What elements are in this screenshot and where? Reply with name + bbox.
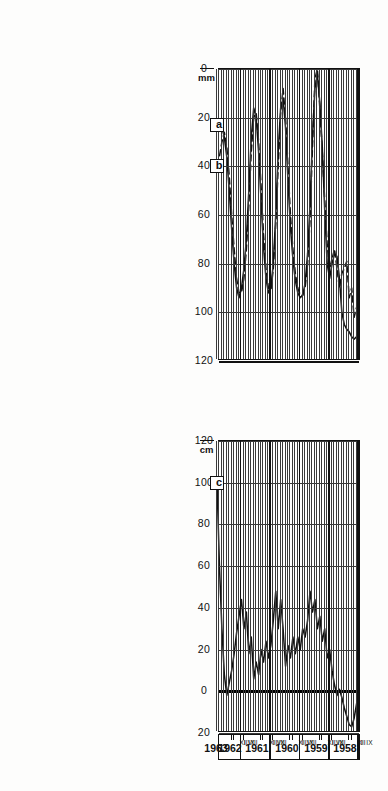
month-gridline [267,69,268,359]
month-gridline [316,441,317,731]
month-tick [231,735,232,740]
month-gridline [263,441,264,731]
month-gridline [297,441,298,731]
y-tick-label: 0 [190,684,218,696]
curve-label-b: b [213,159,225,171]
month-gridline [280,69,281,359]
month-tick [260,735,261,740]
month-gridline [263,69,264,359]
month-gridline [282,69,283,359]
month-gridline [292,441,293,731]
month-gridline [314,69,315,359]
month-tick [289,735,290,740]
month-gridline [221,69,222,359]
month-gridline [297,69,298,359]
month-gridline [275,441,276,731]
month-gridline [348,441,349,731]
month-gridline [267,441,268,731]
year-gridline [358,69,360,359]
month-gridline [275,69,276,359]
month-gridline [289,69,290,359]
plot-area-top [218,68,360,360]
figure-page: mm 120100806040200 ab cm 200204060801001… [0,0,388,791]
month-gridline [277,441,278,731]
month-gridline [321,69,322,359]
curve-label-a: a [213,117,225,129]
month-gridline [316,69,317,359]
month-gridline [312,69,313,359]
month-tick [348,735,349,740]
month-gridline [226,69,227,359]
month-gridline [336,69,337,359]
month-gridline [258,441,259,731]
month-gridline [272,441,273,731]
month-gridline [309,69,310,359]
panel-precipitation: mm 120100806040200 ab [18,26,370,378]
month-gridline [272,69,273,359]
month-gridline [341,441,342,731]
month-gridline [343,441,344,731]
month-gridline [346,69,347,359]
year-gridline [299,69,301,359]
month-gridline [346,441,347,731]
month-gridline [285,69,286,359]
month-gridline [245,441,246,731]
curve-label-c: c [213,475,225,487]
year-gridline [358,441,360,731]
month-gridline [231,69,232,359]
month-gridline [351,441,352,731]
month-gridline [226,441,227,731]
month-gridline [287,69,288,359]
month-gridline [265,69,266,359]
year-gridline [240,441,242,731]
month-gridline [326,441,327,731]
month-gridline [238,69,239,359]
month-gridline [236,69,237,359]
month-gridline [326,69,327,359]
month-label: I [219,738,245,745]
month-gridline [338,69,339,359]
month-gridline [302,441,303,731]
month-gridline [351,69,352,359]
month-gridline [356,69,357,359]
y-tick-label: 20 [190,726,218,738]
month-gridline [260,441,261,731]
month-gridline [287,441,288,731]
month-gridline [243,441,244,731]
month-gridline [265,441,266,731]
month-gridline [243,69,244,359]
month-gridline [353,441,354,731]
y-tick-label: 80 [190,256,218,268]
month-gridline [231,441,232,731]
month-gridline [324,69,325,359]
month-gridline [314,441,315,731]
month-tick [319,735,320,740]
month-gridline [343,69,344,359]
plot-area-bottom [218,440,360,732]
month-gridline [331,441,332,731]
year-gridline [328,441,330,731]
month-gridline [255,441,256,731]
month-gridline [280,441,281,731]
year-gridline [299,441,301,731]
month-gridline [250,441,251,731]
month-gridline [338,441,339,731]
rotated-figure: mm 120100806040200 ab cm 200204060801001… [18,26,370,766]
month-gridline [353,69,354,359]
month-gridline [228,441,229,731]
month-gridline [304,441,305,731]
month-gridline [233,69,234,359]
y-tick-label: 0 [190,62,218,74]
month-gridline [294,69,295,359]
month-gridline [228,69,229,359]
y-tick-label: 20 [190,642,218,654]
month-gridline [253,441,254,731]
y-tick-label: 100 [190,305,218,317]
y-tick-label: 60 [190,559,218,571]
month-gridline [348,69,349,359]
month-gridline [218,69,219,359]
month-gridline [245,69,246,359]
month-gridline [307,69,308,359]
month-gridline [304,69,305,359]
month-gridline [321,441,322,731]
